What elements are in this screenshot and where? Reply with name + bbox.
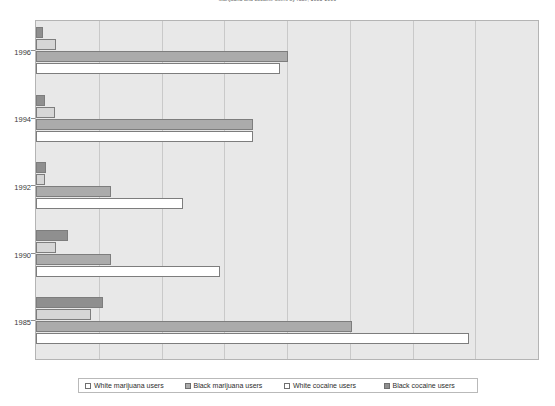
legend-item-label: White cocaine users	[293, 382, 356, 389]
bar-1992-black-marijuana-users	[36, 186, 111, 197]
bar-1985-black-marijuana-users	[36, 321, 352, 332]
bar-1990-white-cocaine-users	[36, 242, 56, 253]
legend-item-white-cocaine-users[interactable]: White cocaine users	[278, 382, 378, 389]
y-axis-tick-1994: 1994	[14, 115, 31, 124]
gridline	[475, 21, 476, 359]
gridline	[413, 21, 414, 359]
bar-1985-black-cocaine-users	[36, 297, 103, 308]
bar-1990-white-marijuana-users	[36, 266, 220, 277]
legend-swatch-icon	[284, 383, 290, 389]
legend-item-label: White marijuana users	[94, 382, 164, 389]
plot-inner	[36, 21, 538, 359]
legend-item-black-marijuana-users[interactable]: Black marijuana users	[179, 382, 279, 389]
legend-swatch-icon	[185, 383, 191, 389]
bar-1992-white-marijuana-users	[36, 198, 183, 209]
legend-item-black-cocaine-users[interactable]: Black cocaine users	[378, 382, 478, 389]
bar-1996-black-cocaine-users	[36, 27, 43, 38]
bar-1985-white-cocaine-users	[36, 309, 91, 320]
gridline	[287, 21, 288, 359]
bar-1992-black-cocaine-users	[36, 162, 46, 173]
y-axis-tick-1990: 1990	[14, 250, 31, 259]
bar-1994-black-cocaine-users	[36, 95, 45, 106]
bar-1996-black-marijuana-users	[36, 51, 288, 62]
legend-swatch-icon	[384, 383, 390, 389]
legend-item-white-marijuana-users[interactable]: White marijuana users	[79, 382, 179, 389]
legend-item-label: Black marijuana users	[194, 382, 263, 389]
legend-swatch-icon	[85, 383, 91, 389]
bar-1990-black-cocaine-users	[36, 230, 68, 241]
chart-legend: White marijuana usersBlack marijuana use…	[78, 378, 478, 393]
plot-area	[35, 20, 539, 360]
chart-container: Marijuana and cocaine users by race, 198…	[0, 0, 555, 406]
legend-item-label: Black cocaine users	[393, 382, 455, 389]
bar-1994-black-marijuana-users	[36, 119, 253, 130]
chart-title: Marijuana and cocaine users by race, 198…	[0, 0, 555, 3]
y-axis-tick-1996: 1996	[14, 47, 31, 56]
bar-1985-white-marijuana-users	[36, 333, 469, 344]
bar-1992-white-cocaine-users	[36, 174, 45, 185]
gridline	[350, 21, 351, 359]
bar-1990-black-marijuana-users	[36, 254, 111, 265]
bar-1996-white-marijuana-users	[36, 63, 280, 74]
y-axis: 19961994199219901985	[0, 20, 35, 360]
bar-1996-white-cocaine-users	[36, 39, 56, 50]
bar-1994-white-marijuana-users	[36, 131, 253, 142]
y-axis-tick-1992: 1992	[14, 183, 31, 192]
y-axis-tick-1985: 1985	[14, 318, 31, 327]
bar-1994-white-cocaine-users	[36, 107, 55, 118]
